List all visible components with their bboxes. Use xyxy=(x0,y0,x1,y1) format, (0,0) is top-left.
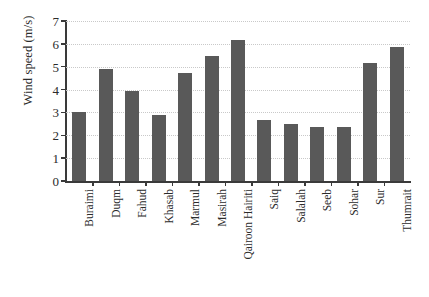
bar xyxy=(363,63,377,181)
y-tick-mark xyxy=(61,20,66,22)
x-category-label: Qairoon Hairiti xyxy=(243,189,255,260)
x-tick-mark xyxy=(145,181,147,186)
bar xyxy=(72,112,86,181)
x-tick-mark xyxy=(357,181,359,186)
bar xyxy=(125,91,139,181)
x-category-label: Marmul xyxy=(190,189,202,226)
x-category-label: Salalah xyxy=(296,189,308,223)
bar xyxy=(284,124,298,181)
bar xyxy=(178,73,192,181)
y-tick-label: 6 xyxy=(53,37,60,50)
bar xyxy=(337,127,351,181)
x-category-label: Khasab xyxy=(164,189,176,224)
wind-speed-bar-chart: Wind speed (m/s) 01234567 BuraimiDuqmFah… xyxy=(0,0,429,297)
y-tick-label: 1 xyxy=(53,152,60,165)
y-tick-mark xyxy=(61,66,66,68)
bar xyxy=(257,120,271,181)
y-tick-label: 4 xyxy=(53,83,60,96)
y-tick-mark xyxy=(61,180,66,182)
x-tick-mark xyxy=(225,181,227,186)
x-category-label: Fahud xyxy=(137,189,149,218)
bar xyxy=(390,47,404,181)
y-tick-mark xyxy=(61,89,66,91)
x-category-label: Masirah xyxy=(217,189,229,227)
x-category-label: Buraimi xyxy=(84,189,96,227)
y-tick-label: 7 xyxy=(53,15,60,28)
y-tick-mark xyxy=(61,43,66,45)
bar xyxy=(231,40,245,181)
x-category-label: Seeb xyxy=(322,189,334,211)
plot-area: 01234567 BuraimiDuqmFahudKhasabMarmulMas… xyxy=(66,21,410,181)
x-tick-mark xyxy=(198,181,200,186)
y-tick-label: 3 xyxy=(53,106,60,119)
bar xyxy=(99,69,113,181)
bar xyxy=(310,127,324,181)
x-tick-mark xyxy=(384,181,386,186)
x-category-label: Sur xyxy=(375,189,387,205)
y-tick-label: 2 xyxy=(53,129,60,142)
x-tick-mark xyxy=(119,181,121,186)
x-tick-mark xyxy=(278,181,280,186)
x-axis-line xyxy=(65,181,411,183)
y-tick-label: 5 xyxy=(53,60,60,73)
x-tick-mark xyxy=(92,181,94,186)
x-tick-mark xyxy=(304,181,306,186)
y-tick-mark xyxy=(61,157,66,159)
y-axis-title: Wind speed (m/s) xyxy=(21,0,36,141)
x-tick-mark xyxy=(251,181,253,186)
x-category-label: Thumrait xyxy=(402,189,414,232)
x-tick-mark xyxy=(172,181,174,186)
x-category-label: Sohar xyxy=(349,189,361,216)
bar xyxy=(205,56,219,181)
x-tick-mark xyxy=(331,181,333,186)
gridline xyxy=(66,21,410,22)
x-category-label: Duqm xyxy=(111,189,123,218)
y-tick-mark xyxy=(61,135,66,137)
y-tick-label: 0 xyxy=(53,175,60,188)
y-tick-mark xyxy=(61,112,66,114)
x-category-label: Saiq xyxy=(269,189,281,209)
bar xyxy=(152,115,166,181)
